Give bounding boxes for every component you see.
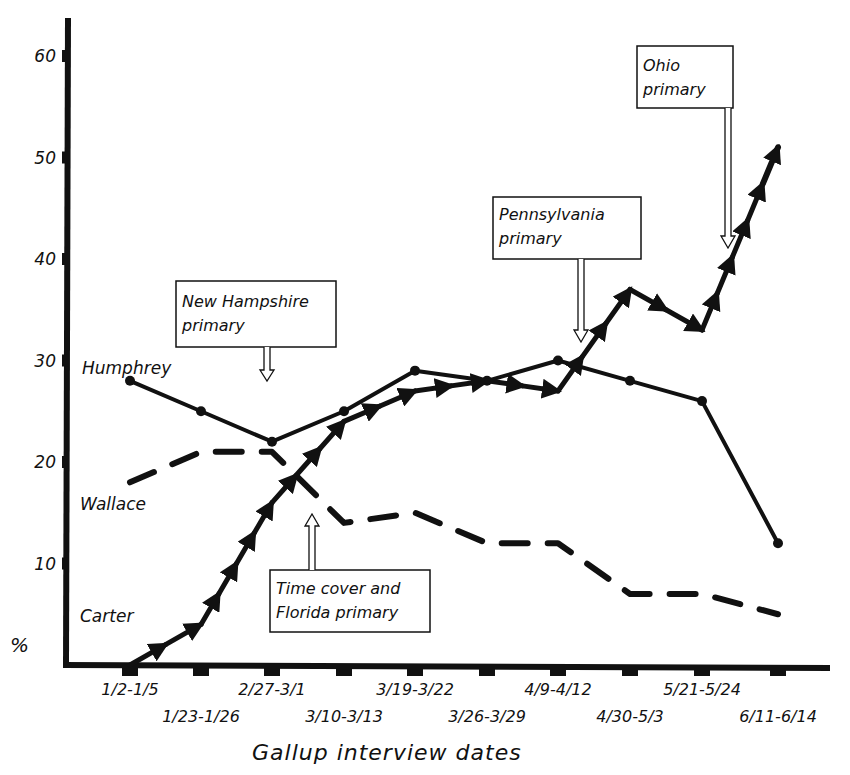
arrow-segment xyxy=(630,289,666,309)
x-tick-mark xyxy=(622,668,638,676)
arrow-segment xyxy=(130,645,166,665)
y-tick-mark xyxy=(62,50,68,62)
y-tick-labels: 102030405060 xyxy=(34,46,68,574)
svg-text:Pennsylvania: Pennsylvania xyxy=(499,205,605,224)
annotation-time-florida: Time cover and Florida primary xyxy=(270,514,430,632)
x-tick-mark xyxy=(193,668,209,676)
series-wallace xyxy=(130,452,778,614)
svg-text:primary: primary xyxy=(181,316,245,335)
y-tick-mark xyxy=(62,456,68,468)
arrow-segment xyxy=(254,503,272,533)
y-tick-mark xyxy=(62,355,68,367)
x-tick-mark xyxy=(264,668,280,676)
x-tick-label: 1/23-1/26 xyxy=(162,707,240,726)
x-tick-mark xyxy=(122,668,138,676)
y-tick-label: 50 xyxy=(34,148,56,168)
x-tick-label: 5/21-5/24 xyxy=(663,680,741,699)
arrow-segment xyxy=(732,220,747,257)
arrow-segment xyxy=(296,448,320,475)
annotation-pennsylvania: Pennsylvania primary xyxy=(493,197,641,342)
data-point xyxy=(410,366,420,376)
arrow-segment xyxy=(272,476,296,503)
y-tick-mark xyxy=(62,253,68,265)
data-point xyxy=(553,356,563,366)
x-tick-label: 3/19-3/22 xyxy=(376,680,454,699)
arrow-segment xyxy=(748,184,763,221)
series-label-wallace: Wallace xyxy=(80,494,146,514)
y-tick-label: 20 xyxy=(34,452,56,472)
x-axis xyxy=(63,665,830,668)
arrow-segment xyxy=(702,294,717,331)
svg-text:Time cover and: Time cover and xyxy=(276,579,401,598)
series-label-humphrey: Humphrey xyxy=(82,358,172,378)
x-tick-mark xyxy=(770,668,786,676)
data-point xyxy=(697,396,707,406)
x-axis-title: Gallup interview dates xyxy=(252,740,522,765)
series-carter xyxy=(130,147,778,665)
y-tick-label: 10 xyxy=(34,554,56,574)
svg-text:Ohio: Ohio xyxy=(643,56,680,75)
svg-text:Florida primary: Florida primary xyxy=(276,603,399,622)
arrow-segment xyxy=(451,381,487,386)
arrow-segment xyxy=(219,564,237,594)
arrow-segment xyxy=(606,289,630,323)
y-unit-label: % xyxy=(10,633,29,657)
x-tick-label: 3/10-3/13 xyxy=(305,707,383,726)
line-path xyxy=(130,452,778,614)
x-tick-label: 4/30-5/3 xyxy=(596,707,663,726)
x-tick-mark xyxy=(336,668,352,676)
y-tick-label: 30 xyxy=(34,351,56,371)
series-label-carter: Carter xyxy=(80,606,134,626)
x-tick-label: 3/26-3/29 xyxy=(448,707,526,726)
arrow-segment xyxy=(487,381,523,386)
data-point xyxy=(773,538,783,548)
data-point xyxy=(625,376,635,386)
svg-text:primary: primary xyxy=(642,80,706,99)
series-layer xyxy=(125,147,783,665)
arrow-segment xyxy=(717,257,732,294)
annotation-ohio: Ohio primary xyxy=(637,46,735,248)
data-point xyxy=(267,437,277,447)
x-tick-label: 1/2-1/5 xyxy=(101,680,158,699)
y-tick-mark xyxy=(62,558,68,570)
arrow-segment xyxy=(166,624,202,644)
x-tick-mark xyxy=(479,668,495,676)
arrow-segment xyxy=(415,386,451,391)
down-arrow-icon xyxy=(721,108,735,248)
data-point xyxy=(339,406,349,416)
svg-text:New Hampshire: New Hampshire xyxy=(182,292,309,311)
x-tick-mark xyxy=(407,668,423,676)
arrow-segment xyxy=(380,391,416,406)
arrow-segment xyxy=(523,386,559,391)
annotation-new-hampshire: New Hampshire primary xyxy=(176,281,336,381)
down-arrow-icon xyxy=(574,259,588,342)
x-tick-label: 2/27-3/1 xyxy=(238,680,305,699)
arrow-segment xyxy=(320,421,344,448)
x-tick-labels: 1/2-1/51/23-1/262/27-3/13/10-3/133/19-3/… xyxy=(101,668,816,726)
y-tick-mark xyxy=(62,152,68,164)
x-tick-mark xyxy=(694,668,710,676)
down-arrow-icon xyxy=(260,347,274,381)
y-tick-label: 40 xyxy=(34,249,56,269)
x-tick-label: 6/11-6/14 xyxy=(739,707,817,726)
arrow-segment xyxy=(582,323,606,357)
up-arrow-icon xyxy=(305,514,319,570)
x-tick-mark xyxy=(550,668,566,676)
arrow-segment xyxy=(763,147,778,184)
x-tick-label: 4/9-4/12 xyxy=(524,680,591,699)
arrow-segment xyxy=(237,533,255,563)
poll-line-chart: 102030405060 1/2-1/51/23-1/262/27-3/13/1… xyxy=(0,0,850,775)
y-tick-label: 60 xyxy=(34,46,56,66)
data-point xyxy=(196,406,206,416)
arrow-segment xyxy=(666,310,702,330)
arrow-segment xyxy=(201,594,219,624)
svg-text:primary: primary xyxy=(498,229,562,248)
